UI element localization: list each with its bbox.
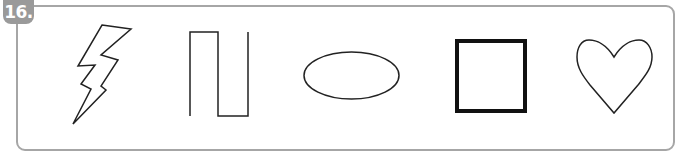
square-wave-icon	[190, 32, 248, 116]
shapes-canvas	[0, 0, 679, 159]
lightning-bolt-icon	[73, 25, 131, 124]
heart-icon	[577, 40, 652, 113]
ellipse-icon	[304, 52, 399, 99]
square-icon	[457, 41, 525, 111]
